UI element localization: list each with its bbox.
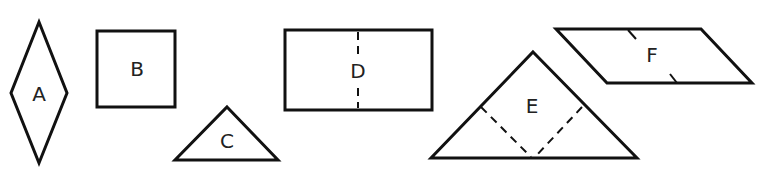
- shapes-svg: A B C D E F: [0, 0, 767, 174]
- fold-line-e-right: [535, 107, 582, 157]
- shape-f: F: [556, 29, 752, 83]
- shape-c: C: [175, 107, 278, 160]
- label-b: B: [130, 57, 144, 81]
- label-e: E: [526, 94, 539, 118]
- label-a: A: [32, 82, 46, 106]
- shapes-figure: A B C D E F: [0, 0, 767, 174]
- shape-b: B: [97, 31, 175, 107]
- label-c: C: [220, 129, 234, 153]
- shape-e: E: [431, 52, 637, 158]
- label-d: D: [350, 59, 365, 83]
- shape-a: A: [11, 22, 67, 163]
- shape-d: D: [285, 30, 432, 110]
- label-f: F: [646, 43, 658, 67]
- tick-mark-f-top: [628, 30, 636, 39]
- fold-line-e-left: [481, 107, 531, 157]
